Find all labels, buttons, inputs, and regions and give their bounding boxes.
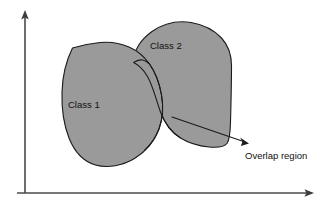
class-2-label: Class 2: [150, 40, 182, 51]
overlap-region-label: Overlap region: [245, 150, 307, 161]
class-overlap-diagram: Class 1 Class 2 Overlap region: [0, 0, 331, 212]
class-1-label: Class 1: [68, 99, 100, 110]
overlap-arrowhead-icon: [240, 138, 249, 147]
figure-canvas: Class 1 Class 2 Overlap region: [0, 0, 331, 212]
